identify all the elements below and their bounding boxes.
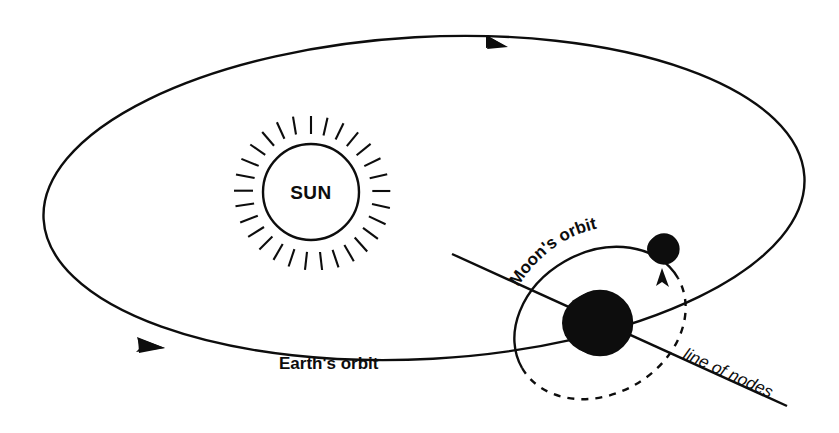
moon-night-side — [647, 234, 679, 263]
moon-orbit-direction-arrow — [656, 268, 669, 287]
astronomy-diagram: SUN Earth's orbi — [0, 0, 839, 433]
moon-group — [647, 234, 679, 263]
diagram-canvas: SUN Earth's orbi — [0, 0, 839, 433]
line-of-nodes-label: line of nodes — [680, 344, 776, 401]
earth-orbit-path — [35, 16, 814, 380]
earth-orbit-label: Earth's orbit — [279, 354, 379, 373]
sun-group: SUN — [234, 116, 390, 270]
earth-group — [562, 291, 632, 355]
earth-night-side-extra — [562, 291, 632, 355]
earth-orbit-arrow-bottom-2 — [138, 338, 165, 353]
sun-label: SUN — [290, 182, 332, 203]
earth-orbit-group — [35, 16, 814, 380]
